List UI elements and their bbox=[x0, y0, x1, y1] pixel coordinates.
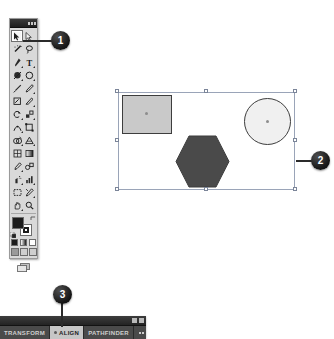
selection-handle-bottom-center[interactable] bbox=[204, 187, 208, 191]
tool-button-blend-tool[interactable] bbox=[23, 160, 35, 172]
callout-3-number: 3 bbox=[60, 290, 66, 300]
rectangle-center-point bbox=[145, 112, 148, 115]
selection-handle-top-right[interactable] bbox=[293, 89, 297, 93]
collapse-icon[interactable] bbox=[28, 22, 30, 25]
flyout-indicator-icon bbox=[33, 105, 35, 107]
tab-transform[interactable]: TRANSFORM bbox=[0, 326, 50, 339]
swap-fill-stroke-icon[interactable] bbox=[30, 216, 36, 222]
tool-button-perspective-grid-tool[interactable] bbox=[23, 134, 35, 146]
selection-handle-top-left[interactable] bbox=[115, 89, 119, 93]
flyout-indicator-icon bbox=[33, 66, 35, 68]
tool-button-paintbrush-tool[interactable] bbox=[11, 82, 23, 94]
flyout-indicator-icon bbox=[33, 183, 35, 185]
flyout-indicator-icon bbox=[33, 144, 35, 146]
tool-button-magic-wand-tool[interactable] bbox=[11, 43, 23, 55]
fill-swatch[interactable] bbox=[12, 217, 24, 229]
tools-grid: T bbox=[10, 28, 37, 212]
tool-button-shape-builder-tool[interactable] bbox=[11, 134, 23, 146]
tool-button-blob-brush-tool[interactable] bbox=[11, 95, 23, 107]
tool-button-lasso-tool[interactable] bbox=[23, 43, 35, 55]
fullscreen-menubar-mode-button[interactable] bbox=[20, 248, 28, 256]
circle-shape[interactable] bbox=[244, 98, 291, 145]
callout-1-number: 1 bbox=[58, 36, 64, 46]
fill-stroke-control[interactable] bbox=[10, 216, 37, 238]
tool-button-width-tool[interactable] bbox=[11, 121, 23, 133]
tool-button-eraser-tool[interactable] bbox=[23, 95, 35, 107]
tool-button-zoom-tool[interactable] bbox=[23, 199, 35, 211]
selection-handle-bottom-right[interactable] bbox=[293, 187, 297, 191]
align-panel-group[interactable]: TRANSFORM ALIGN PATHFINDER bbox=[0, 316, 146, 338]
tools-panel[interactable]: T bbox=[9, 18, 38, 259]
selection-handle-middle-right[interactable] bbox=[293, 138, 297, 142]
panel-titlebar[interactable] bbox=[0, 316, 146, 326]
gradient-mode-button[interactable] bbox=[20, 239, 27, 246]
change-screen-mode-icon[interactable] bbox=[17, 263, 31, 273]
tool-button-line-segment-tool[interactable] bbox=[11, 69, 23, 81]
tool-button-rotate-tool[interactable] bbox=[11, 108, 23, 120]
fullscreen-mode-button[interactable] bbox=[29, 248, 37, 256]
close-icon[interactable] bbox=[139, 318, 144, 323]
default-fill-stroke-icon[interactable] bbox=[10, 232, 16, 238]
tool-button-column-graph-tool[interactable] bbox=[23, 173, 35, 185]
tool-button-pen-tool[interactable] bbox=[11, 56, 23, 68]
rectangle-shape[interactable] bbox=[122, 95, 172, 134]
tab-pathfinder-label: PATHFINDER bbox=[88, 330, 129, 336]
panel-tab-spacer bbox=[134, 326, 146, 339]
none-mode-button[interactable] bbox=[29, 239, 36, 246]
paint-mode-buttons[interactable] bbox=[10, 239, 37, 246]
flyout-indicator-icon bbox=[33, 196, 35, 198]
close-icon[interactable] bbox=[34, 22, 36, 25]
selection-handle-top-center[interactable] bbox=[204, 89, 208, 93]
tab-align-icon bbox=[54, 331, 57, 334]
tool-button-scale-tool[interactable] bbox=[23, 108, 35, 120]
tool-button-free-transform-tool[interactable] bbox=[23, 121, 35, 133]
collapse-icon[interactable] bbox=[31, 22, 33, 25]
tool-button-hand-tool[interactable] bbox=[11, 199, 23, 211]
normal-screen-mode-button[interactable] bbox=[11, 248, 19, 256]
selection-handle-bottom-left[interactable] bbox=[115, 187, 119, 191]
tool-button-gradient-tool[interactable] bbox=[23, 147, 35, 159]
flyout-indicator-icon bbox=[33, 118, 35, 120]
tool-button-pencil-tool[interactable] bbox=[23, 82, 35, 94]
callout-1: 1 bbox=[51, 31, 70, 50]
tools-divider bbox=[11, 213, 36, 214]
tool-button-symbol-sprayer-tool[interactable] bbox=[11, 173, 23, 185]
panel-tab-strip[interactable]: TRANSFORM ALIGN PATHFINDER bbox=[0, 326, 146, 339]
tool-button-artboard-tool[interactable] bbox=[11, 186, 23, 198]
circle-center-point bbox=[266, 120, 269, 123]
tools-panel-titlebar[interactable] bbox=[10, 19, 37, 28]
callout-3: 3 bbox=[53, 285, 72, 304]
tool-button-mesh-tool[interactable] bbox=[11, 147, 23, 159]
screen-mode-buttons[interactable] bbox=[10, 248, 37, 256]
artboard[interactable] bbox=[118, 92, 295, 190]
tab-align[interactable]: ALIGN bbox=[50, 326, 84, 339]
selection-handle-middle-left[interactable] bbox=[115, 138, 119, 142]
svg-text:T: T bbox=[26, 58, 32, 67]
flyout-indicator-icon bbox=[33, 79, 35, 81]
panel-menu-button[interactable] bbox=[142, 332, 144, 334]
hexagon-shape[interactable] bbox=[175, 135, 230, 188]
tool-button-selection-tool[interactable] bbox=[11, 30, 23, 42]
tab-pathfinder[interactable]: PATHFINDER bbox=[84, 326, 134, 339]
tools-panel-footer[interactable] bbox=[10, 259, 37, 276]
collapse-icon[interactable] bbox=[132, 318, 137, 323]
color-mode-button[interactable] bbox=[11, 239, 18, 246]
callout-2: 2 bbox=[311, 151, 330, 170]
panel-menu-button[interactable] bbox=[139, 332, 141, 334]
tool-button-ellipse-tool[interactable] bbox=[23, 69, 35, 81]
tool-button-type-tool[interactable]: T bbox=[23, 56, 35, 68]
tab-transform-label: TRANSFORM bbox=[4, 330, 45, 336]
tool-button-slice-tool[interactable] bbox=[23, 186, 35, 198]
callout-2-number: 2 bbox=[318, 156, 324, 166]
flyout-indicator-icon bbox=[33, 92, 35, 94]
tool-button-eyedropper-tool[interactable] bbox=[11, 160, 23, 172]
tab-align-label: ALIGN bbox=[59, 330, 79, 336]
